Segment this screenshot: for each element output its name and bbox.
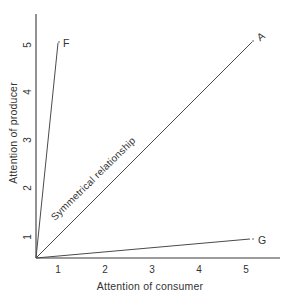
point-label-A: A: [254, 29, 267, 43]
x-tick-4: 4: [196, 264, 202, 275]
point-G-marker: [252, 238, 254, 240]
y-tick-1: 1: [22, 234, 33, 240]
x-tick-5: 5: [243, 264, 249, 275]
y-tick-2: 2: [22, 185, 33, 191]
y-tick-3: 3: [22, 137, 33, 143]
line-F: [36, 43, 58, 258]
y-tick-5: 5: [22, 42, 33, 48]
symmetrical-relationship-annotation: Symmetrical relationship: [49, 135, 138, 223]
line-G: [36, 239, 250, 258]
x-axis-title: Attention of consumer: [97, 280, 204, 292]
y-tick-4: 4: [22, 89, 33, 95]
x-tick-2: 2: [102, 264, 108, 275]
point-label-G: G: [258, 234, 266, 246]
point-F-marker: [58, 41, 60, 43]
x-tick-3: 3: [149, 264, 155, 275]
y-axis-title: Attention of producer: [7, 82, 19, 184]
line-A-symmetrical: [36, 42, 252, 258]
x-tick-1: 1: [55, 264, 61, 275]
point-A-marker: [252, 40, 254, 42]
attention-relationship-diagram: F A G Symmetrical relationship 1 2 3 4 5…: [0, 0, 288, 299]
point-label-F: F: [63, 37, 69, 49]
